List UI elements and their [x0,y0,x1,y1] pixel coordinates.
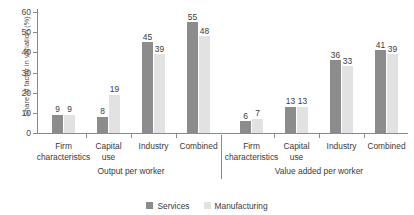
y-axis-tick [33,12,37,13]
y-axis-tick [33,133,37,134]
bar-value-label: 39 [155,45,164,53]
x-axis-category-label: Firmcharacteristics [37,141,91,163]
category-label-line: Firm [225,141,279,152]
bar-manufacturing: 7 [252,119,263,133]
legend-swatch [204,202,211,209]
legend-swatch [146,202,153,209]
bar-value-label: 45 [143,33,152,41]
y-axis-tick [33,52,37,53]
y-axis-tick [33,73,37,74]
bar-value-label: 55 [188,13,197,21]
plot-area: 0102030405060 99819453955486713133633413… [37,9,408,134]
bar-value-label: 36 [331,51,340,59]
panel-title: Value added per worker [275,166,363,176]
bar-chart: Share of factor in variation (%) 0102030… [0,0,414,215]
category-label-line: Industry [139,141,169,152]
x-axis-category-label: Combined [179,141,217,152]
chart-legend: ServicesManufacturing [0,202,414,210]
panel-title: Output per worker [97,166,164,176]
y-axis-tick [33,113,37,114]
bar-value-label: 7 [255,109,260,117]
y-axis-tick-label: 30 [21,68,31,77]
bar-services: 13 [285,107,296,133]
x-axis-tick [364,134,365,138]
bar-value-label: 41 [376,41,385,49]
bar-value-label: 13 [286,97,295,105]
category-label-line: characteristics [225,152,279,163]
bar-value-label: 6 [243,112,248,120]
x-axis-line [37,133,408,134]
x-axis-tick [86,134,87,138]
bar-value-label: 48 [200,27,209,35]
bar-manufacturing: 33 [342,66,353,133]
category-label-line: Industry [327,141,357,152]
legend-item: Services [146,202,189,210]
x-axis-category-label: Industry [327,141,357,152]
y-axis-tick-label: 50 [21,28,31,37]
bar-services: 8 [97,117,108,133]
x-axis-tick [319,134,320,138]
bar-value-label: 9 [67,105,72,113]
x-axis-category-label: Capitaluse [95,141,121,163]
bar-services: 41 [375,50,386,133]
panel-separator [221,135,222,179]
bar-value-label: 13 [298,97,307,105]
bar-value-label: 19 [110,85,119,93]
bar-services: 55 [187,22,198,133]
bar-services: 6 [240,121,251,133]
y-axis-tick-label: 0 [26,129,31,138]
legend-item: Manufacturing [204,202,268,210]
y-axis-tick-label: 40 [21,48,31,57]
bar-manufacturing: 39 [387,54,398,133]
bar-value-label: 8 [100,107,105,115]
bar-manufacturing: 48 [199,36,210,133]
bar-manufacturing: 19 [109,95,120,133]
bar-manufacturing: 39 [154,54,165,133]
y-axis-tick-label: 20 [21,88,31,97]
bar-value-label: 9 [55,105,60,113]
x-axis-tick [274,134,275,138]
x-axis-tick [131,134,132,138]
category-label-line: Firm [37,141,91,152]
x-axis-category-label: Capitaluse [283,141,309,163]
category-label-line: Combined [367,141,405,152]
y-axis-tick-label: 60 [21,8,31,17]
category-label-line: use [283,152,309,163]
x-axis-category-label: Firmcharacteristics [225,141,279,163]
bar-services: 9 [52,115,63,133]
legend-label: Services [157,202,189,210]
category-label-line: Combined [179,141,217,152]
x-axis-category-label: Industry [139,141,169,152]
category-label-line: Capital [95,141,121,152]
y-axis-tick-label: 10 [21,109,31,118]
category-label-line: Capital [283,141,309,152]
category-label-line: characteristics [37,152,91,163]
bar-manufacturing: 9 [64,115,75,133]
bar-services: 45 [142,42,153,133]
y-axis-line [37,9,38,134]
bar-services: 36 [330,60,341,133]
x-axis-tick [176,134,177,138]
y-axis-tick [33,32,37,33]
bar-manufacturing: 13 [297,107,308,133]
x-axis-category-label: Combined [367,141,405,152]
legend-label: Manufacturing [215,202,268,210]
y-axis-tick [33,93,37,94]
bar-value-label: 33 [343,57,352,65]
category-label-line: use [95,152,121,163]
bar-value-label: 39 [388,45,397,53]
